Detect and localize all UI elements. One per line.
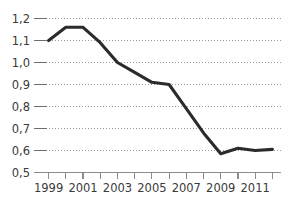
- data-line: [49, 27, 273, 154]
- chart-canvas: 1,21,11,00,90,80,70,60,5 199920012003200…: [0, 0, 292, 203]
- y-axis-tick-label: 1,0: [12, 56, 30, 70]
- x-axis-tick-label: 1999: [34, 181, 63, 195]
- x-axis-tick-label: 2001: [68, 181, 97, 195]
- x-axis-tick-label: 2009: [206, 181, 235, 195]
- x-axis-tick-label: 2011: [241, 181, 270, 195]
- y-axis-tick-label: 0,8: [12, 100, 30, 114]
- y-axis-tick-label: 1,2: [12, 12, 30, 26]
- x-axis-tick-label: 2005: [137, 181, 166, 195]
- y-axis-tick-label: 0,6: [12, 144, 30, 158]
- y-axis-labels: 1,21,11,00,90,80,70,60,5: [12, 12, 30, 180]
- y-axis-tick-label: 0,7: [12, 122, 30, 136]
- data-series-group: [49, 27, 273, 154]
- line-chart: 1,21,11,00,90,80,70,60,5 199920012003200…: [0, 0, 292, 203]
- x-axis-tick-marks: [49, 173, 273, 179]
- y-axis-tick-label: 1,1: [12, 34, 30, 48]
- y-axis-tick-label: 0,5: [12, 166, 30, 180]
- x-axis-tick-label: 2003: [103, 181, 132, 195]
- x-axis-labels: 1999200120032005200720092011: [34, 181, 270, 195]
- x-axis-tick-label: 2007: [172, 181, 201, 195]
- y-axis-tick-stubs: [34, 19, 47, 151]
- y-axis-tick-label: 0,9: [12, 78, 30, 92]
